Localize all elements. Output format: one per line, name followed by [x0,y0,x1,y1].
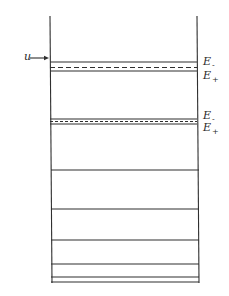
potential-well [30,16,199,283]
label-e-minus-1: E- [203,56,215,70]
energy-level-diagram [0,0,229,296]
well-left-wall [50,16,52,283]
label-e-plus-2: E+ [203,122,219,136]
input-label-u: u [24,51,31,62]
well-right-wall [197,16,199,283]
arrow-head-icon [44,56,49,60]
label-e-plus-1: E+ [203,70,219,84]
